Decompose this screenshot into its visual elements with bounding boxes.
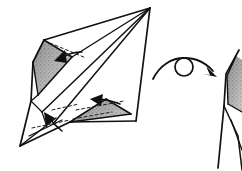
result-model-partial-figure — [0, 0, 242, 171]
result-shaded-pocket-texture — [227, 56, 242, 112]
result-edge-tail-lower — [218, 106, 224, 168]
result-model-body — [218, 50, 242, 170]
origami-diagram-canvas — [0, 0, 242, 171]
